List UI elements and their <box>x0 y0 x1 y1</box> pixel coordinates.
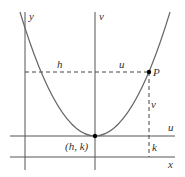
x-axis-label: x <box>167 158 173 170</box>
distance-h-label: h <box>57 58 63 70</box>
distance-u-label: u <box>119 58 125 70</box>
u-axis-label: u <box>168 121 174 133</box>
distance-k-label: k <box>152 141 158 153</box>
vertex-point <box>93 134 97 138</box>
point-P-label: P <box>152 66 160 78</box>
point-P <box>147 70 151 74</box>
v-axis-label: v <box>99 10 104 22</box>
translation-of-axes-diagram: y v u x P (h, k) h u v k <box>0 0 185 177</box>
distance-v-label: v <box>151 98 156 110</box>
vertex-label: (h, k) <box>65 140 89 153</box>
y-axis-label: y <box>28 10 34 22</box>
